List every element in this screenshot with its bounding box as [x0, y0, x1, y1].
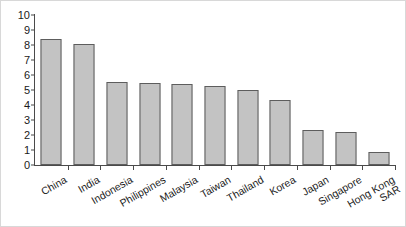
bar — [237, 90, 258, 165]
bar — [41, 39, 62, 165]
bar — [106, 82, 127, 165]
bar-slot — [35, 15, 68, 165]
bar — [74, 44, 95, 166]
x-axis-labels: ChinaIndiaIndonesiaPhilippinesMalaysiaTa… — [35, 165, 395, 227]
y-axis-tick-label: 2 — [24, 130, 30, 141]
plot-area: 109876543210 — [35, 15, 395, 165]
bar — [270, 100, 291, 165]
y-axis-tick-label: 8 — [24, 40, 30, 51]
bar-slot — [199, 15, 232, 165]
bar — [368, 152, 389, 165]
y-axis-tick-label: 10 — [18, 10, 30, 21]
bar-series — [35, 15, 395, 165]
bar — [204, 86, 225, 165]
y-axis-tick-label: 7 — [24, 55, 30, 66]
y-axis-tick-label: 9 — [24, 25, 30, 36]
bar-slot — [166, 15, 199, 165]
y-axis-tick-label: 5 — [24, 85, 30, 96]
bar — [303, 130, 324, 165]
bar — [172, 84, 193, 165]
y-axis-tick-label: 6 — [24, 70, 30, 81]
bar-slot — [264, 15, 297, 165]
bar-slot — [330, 15, 363, 165]
x-axis-tick-mark — [395, 165, 396, 170]
bar-slot — [297, 15, 330, 165]
bar — [139, 83, 160, 166]
y-axis-tick-label: 1 — [24, 145, 30, 156]
bar-slot — [231, 15, 264, 165]
y-axis-tick-label: 3 — [24, 115, 30, 126]
bar — [335, 132, 356, 165]
y-axis-tick-label: 4 — [24, 100, 30, 111]
bar-slot — [100, 15, 133, 165]
bar-slot — [68, 15, 101, 165]
bar-chart: 109876543210 ChinaIndiaIndonesiaPhilippi… — [0, 0, 406, 227]
bar-slot — [362, 15, 395, 165]
bar-slot — [133, 15, 166, 165]
y-axis-tick-label: 0 — [24, 160, 30, 171]
